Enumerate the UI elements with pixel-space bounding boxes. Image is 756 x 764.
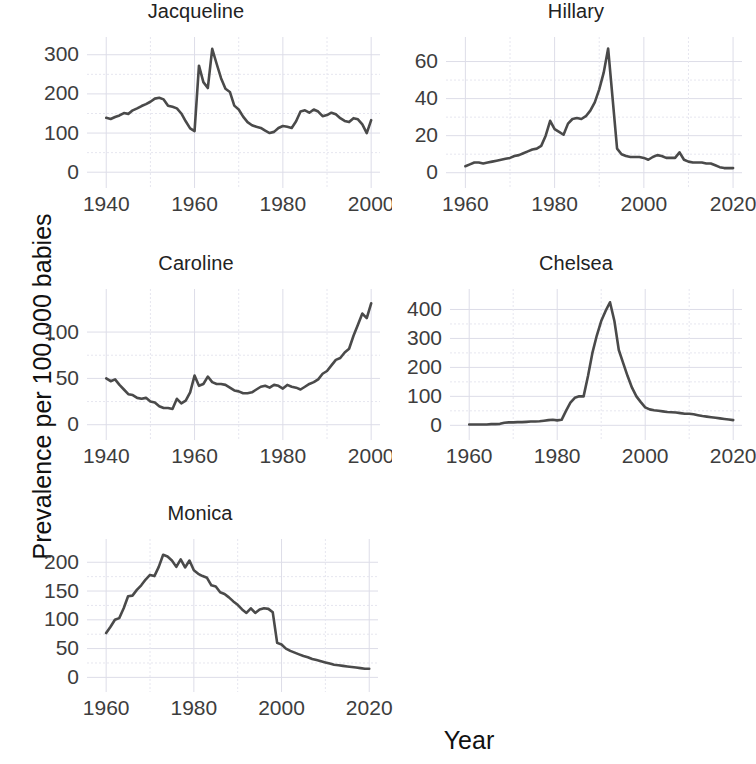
x-tick-label: 1980 bbox=[170, 696, 217, 719]
x-tick-label: 1960 bbox=[446, 444, 493, 467]
y-tick-label: 150 bbox=[44, 579, 79, 602]
panel-caroline: Caroline 0501001940196019802000 bbox=[0, 252, 392, 482]
panel-title-chelsea: Chelsea bbox=[396, 252, 756, 275]
x-axis-label: Year bbox=[404, 726, 534, 755]
x-tick-label: 2000 bbox=[348, 192, 392, 215]
plot-area-monica: 0501001502001960198020002020 bbox=[0, 527, 420, 742]
y-tick-label: 400 bbox=[407, 297, 442, 320]
panel-title-jacqueline: Jacqueline bbox=[0, 0, 392, 23]
panel-monica: Monica 0501001502001960198020002020 bbox=[0, 502, 420, 732]
panel-chelsea: Chelsea 01002003004001960198020002020 bbox=[396, 252, 756, 482]
x-tick-label: 2000 bbox=[258, 696, 305, 719]
y-tick-label: 200 bbox=[44, 550, 79, 573]
y-tick-label: 300 bbox=[44, 42, 79, 65]
plot-area-jacqueline: 01002003001940196019802000 bbox=[0, 25, 392, 230]
panel-title-monica: Monica bbox=[0, 502, 410, 525]
x-tick-label: 2000 bbox=[622, 444, 669, 467]
panel-hillary: Hillary 02040601960198020002020 bbox=[396, 0, 756, 230]
y-tick-label: 50 bbox=[56, 366, 79, 389]
panel-title-hillary: Hillary bbox=[396, 0, 756, 23]
y-tick-label: 200 bbox=[44, 81, 79, 104]
y-tick-label: 0 bbox=[426, 160, 438, 183]
x-tick-label: 1960 bbox=[171, 444, 218, 467]
panel-title-caroline: Caroline bbox=[0, 252, 392, 275]
y-tick-label: 100 bbox=[44, 607, 79, 630]
x-tick-label: 1960 bbox=[83, 696, 130, 719]
plot-area-chelsea: 01002003004001960198020002020 bbox=[396, 277, 756, 482]
x-tick-label: 1980 bbox=[260, 192, 307, 215]
x-tick-label: 1960 bbox=[171, 192, 218, 215]
plot-area-hillary: 02040601960198020002020 bbox=[396, 25, 756, 230]
x-tick-label: 2020 bbox=[710, 444, 756, 467]
x-tick-label: 1960 bbox=[442, 192, 489, 215]
multi-panel-line-chart-figure: Prevalence per 100,000 babies Year Jacqu… bbox=[0, 0, 756, 764]
x-tick-label: 1980 bbox=[531, 192, 578, 215]
panel-jacqueline: Jacqueline 01002003001940196019802000 bbox=[0, 0, 392, 230]
x-tick-label: 1980 bbox=[534, 444, 581, 467]
x-tick-label: 2000 bbox=[348, 444, 392, 467]
y-tick-label: 0 bbox=[67, 412, 79, 435]
y-tick-label: 100 bbox=[44, 121, 79, 144]
x-tick-label: 1940 bbox=[83, 192, 130, 215]
y-tick-label: 300 bbox=[407, 326, 442, 349]
y-tick-label: 50 bbox=[56, 636, 79, 659]
x-tick-label: 2000 bbox=[620, 192, 667, 215]
y-tick-label: 100 bbox=[407, 384, 442, 407]
y-tick-label: 0 bbox=[67, 160, 79, 183]
x-tick-label: 1980 bbox=[260, 444, 307, 467]
y-tick-label: 40 bbox=[415, 86, 438, 109]
y-tick-label: 200 bbox=[407, 355, 442, 378]
y-tick-label: 100 bbox=[44, 320, 79, 343]
y-tick-label: 0 bbox=[430, 413, 442, 436]
y-tick-label: 20 bbox=[415, 123, 438, 146]
x-tick-label: 2020 bbox=[346, 696, 393, 719]
y-tick-label: 0 bbox=[67, 665, 79, 688]
y-tick-label: 60 bbox=[415, 49, 438, 72]
x-tick-label: 1940 bbox=[83, 444, 130, 467]
plot-area-caroline: 0501001940196019802000 bbox=[0, 277, 392, 482]
x-tick-label: 2020 bbox=[710, 192, 756, 215]
